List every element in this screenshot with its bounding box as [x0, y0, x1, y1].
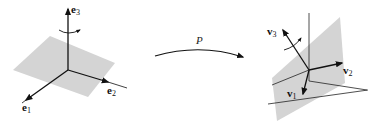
- v2-label: v2: [343, 64, 353, 78]
- transformed-frame: v3 v2 v1: [267, 13, 368, 121]
- xy-plane: [13, 36, 115, 97]
- v3-label: v3: [267, 25, 277, 39]
- map-arrow-icon: [155, 50, 243, 57]
- standard-frame: e3 e1 e2: [13, 3, 127, 115]
- transformation-diagram: e3 e1 e2 P v3 v2 v1: [0, 0, 384, 126]
- e1-label: e1: [22, 101, 31, 115]
- e3-label: e3: [71, 3, 80, 17]
- rotation-arrow-icon: [59, 30, 80, 33]
- map-p: P: [155, 34, 243, 57]
- map-label: P: [195, 34, 203, 46]
- e2-label: e2: [107, 84, 116, 98]
